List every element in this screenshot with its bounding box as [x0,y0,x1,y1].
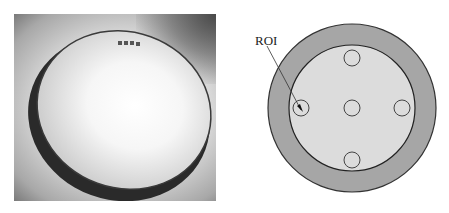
lens-svg [14,14,216,201]
roi-schematic [225,0,449,213]
lens-photo [14,14,216,201]
roi-diagram: ROI [225,0,449,213]
roi-label: ROI [255,33,277,49]
